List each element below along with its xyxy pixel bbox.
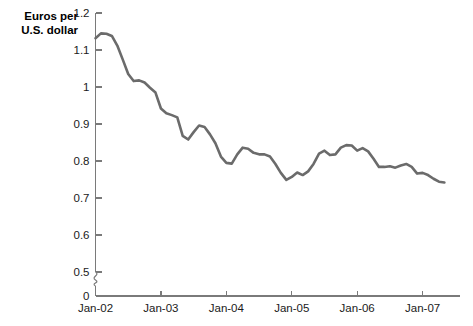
x-axis-tick-labels: Jan-02Jan-03Jan-04Jan-05Jan-06Jan-07 <box>78 302 440 314</box>
x-axis-ticks <box>96 291 423 296</box>
y-axis-group: 00.50.60.70.80.911.11.2 <box>74 7 102 302</box>
y-axis-tick-label: 1 <box>83 81 89 93</box>
y-axis-ticks <box>96 13 102 272</box>
data-series-line <box>96 33 445 182</box>
y-axis-tick-label: 0 <box>83 290 89 302</box>
y-axis-tick-label: 0.6 <box>74 229 90 241</box>
x-axis-tick-label: Jan-06 <box>340 302 375 314</box>
y-axis-tick-labels: 00.50.60.70.80.911.11.2 <box>74 7 90 302</box>
y-axis-tick-label: 0.5 <box>74 266 90 278</box>
x-axis-tick-label: Jan-05 <box>274 302 309 314</box>
y-axis-tick-label: 0.7 <box>74 192 90 204</box>
axis-break-icon <box>94 272 97 286</box>
y-axis-tick-label: 1.2 <box>74 7 90 19</box>
x-axis-tick-label: Jan-03 <box>143 302 178 314</box>
y-axis-tick-label: 0.8 <box>74 155 90 167</box>
y-axis-tick-label: 1.1 <box>74 44 90 56</box>
chart-container: Euros per U.S. dollar 00.50.60.70.80.911… <box>0 0 473 326</box>
x-axis-tick-label: Jan-02 <box>78 302 113 314</box>
x-axis-tick-label: Jan-04 <box>209 302 245 314</box>
y-axis-tick-label: 0.9 <box>74 118 90 130</box>
line-chart-plot: 00.50.60.70.80.911.11.2 Jan-02Jan-03Jan-… <box>0 0 473 326</box>
x-axis-group: Jan-02Jan-03Jan-04Jan-05Jan-06Jan-07 <box>78 291 460 314</box>
x-axis-tick-label: Jan-07 <box>405 302 440 314</box>
